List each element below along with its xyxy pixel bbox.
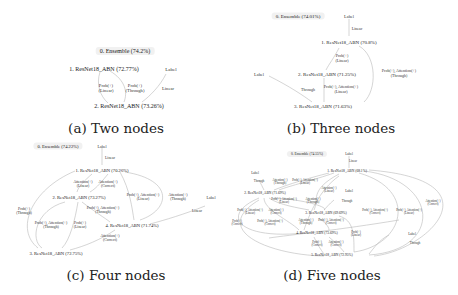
source-label: Label bbox=[97, 144, 106, 149]
edge-label: Attention(+) (Through) bbox=[305, 198, 320, 205]
source-label: Label bbox=[408, 232, 416, 236]
node-4: 4. ResNet18_ABN (73.69%) bbox=[296, 231, 338, 235]
edge-label: Prob(+), Attention(+) (Correct) bbox=[318, 219, 344, 226]
edge-label: Prob(+) (Linear) bbox=[335, 54, 348, 63]
edge-label: Attention(+) (Linear) bbox=[73, 180, 92, 188]
edge-label: Prob(+) (Through) bbox=[16, 207, 32, 215]
edge-label: Attention(+) (Correct) bbox=[425, 200, 440, 207]
edge-label: Linear bbox=[162, 86, 174, 91]
edge-label: Attention(+) (Correct) bbox=[98, 180, 117, 188]
edge-label: Prob(+) (Linear) bbox=[74, 221, 86, 229]
edge-label: Attention(+) (Linear) bbox=[321, 187, 336, 194]
edge-label: Prob(+), Attention(+) (Linear) bbox=[237, 209, 263, 216]
node-ensemble: 0. Ensemble (74.22%) bbox=[33, 143, 82, 150]
node-4: 4. ResNet18_ABN (71.74%) bbox=[105, 223, 158, 228]
edge-label: Prob(+), Attention(+) (Linear) bbox=[324, 85, 358, 94]
edge-label: Through bbox=[301, 88, 315, 93]
panel-two-nodes: 0. Ensemble (74.2%) 1. ResNet18_ABN (72.… bbox=[0, 0, 229, 140]
edge-label: Prob(+), Attention(+) (Through) bbox=[382, 69, 416, 78]
edge-label: Through bbox=[410, 242, 420, 245]
edge-label: Prob(+) (Through) bbox=[126, 83, 145, 93]
node-2: 2. ResNet18_ABN (73.27%) bbox=[52, 195, 105, 200]
panel-four-nodes: 0. Ensemble (74.22%) Label Linear 1. Res… bbox=[0, 140, 229, 295]
edge-label: Prob(+), Attention(+) (Correct) bbox=[257, 220, 283, 227]
node-ensemble: 0. Ensemble (74.2%) bbox=[96, 47, 155, 55]
node-1: 1. ResNet18_ABN (72.77%) bbox=[69, 66, 138, 72]
node-ensemble: 0. Ensemble (74.55%) bbox=[287, 151, 327, 157]
edge-label: Attention(+) (Through) bbox=[298, 219, 313, 226]
edges-layer bbox=[229, 0, 458, 140]
caption: (a) Two nodes bbox=[68, 120, 164, 136]
source-label: Label bbox=[206, 195, 215, 200]
edge-label: Prob(+) (Correct) bbox=[312, 241, 323, 248]
node-2: 2. ResNet18_ABN (71.69%) bbox=[244, 191, 286, 195]
edge-label: Linear bbox=[349, 160, 357, 163]
node-2: 2. ResNet18_ABN (71.25%) bbox=[298, 72, 356, 77]
node-1: 1. ResNet18_ABN (70.8%) bbox=[321, 40, 376, 45]
edge-label: Prob(+), Attention(+) (Linear) bbox=[396, 209, 422, 216]
source-label: Label bbox=[344, 14, 354, 19]
edge-label: Prob(+), Attention(+) (Correct) bbox=[362, 209, 388, 216]
edge-label: Prob(+), Attention(+) (Through) bbox=[35, 221, 68, 229]
edge-label: Linear bbox=[192, 209, 202, 213]
node-5: 5. ResNet18_ABN (72.95%) bbox=[311, 253, 353, 257]
panel-five-nodes: 0. Ensemble (74.55%) Label Linear 1. Res… bbox=[229, 140, 458, 295]
node-2: 2. ResNet18_ABN (73.26%) bbox=[94, 103, 163, 109]
edge-label: Attention(+) (Through) bbox=[168, 193, 187, 201]
edge-label: Prob(+) (Linear) bbox=[98, 83, 113, 93]
node-1: 1. ResNet18_ABN (68.1%) bbox=[327, 169, 367, 173]
source-label: Label bbox=[165, 67, 176, 72]
edge-label: Attention(+) (Correct) bbox=[100, 234, 119, 242]
edge-label: Attention(+) (Correct) bbox=[268, 209, 283, 216]
node-1: 1. ResNet18_ABN (70.26%) bbox=[75, 168, 128, 173]
source-label: Label bbox=[345, 189, 353, 193]
caption: (b) Three nodes bbox=[287, 120, 395, 136]
edge-label: Prob(+), Attention(+) (Through) bbox=[87, 206, 120, 214]
node-3: 3. ResNet18_ABN (72.75%) bbox=[29, 251, 82, 256]
edge-label: Attention(+) (Through) bbox=[272, 179, 287, 186]
edge-label: Through bbox=[342, 200, 352, 203]
node-3: 3. ResNet18_ABN (69.69%) bbox=[305, 211, 347, 215]
node-ensemble: 0. Ensemble (74.01%) bbox=[272, 13, 325, 20]
edge-label: Attention(+) (Correct) bbox=[328, 241, 343, 248]
edge-label: Linear bbox=[352, 27, 362, 32]
edge-label: Prob(+), Attention(+) (Linear) bbox=[127, 193, 160, 201]
caption: (c) Four nodes bbox=[67, 267, 166, 283]
edge-label: Prob(+), Attention(+) (Linear) bbox=[271, 198, 297, 205]
edge-label: Prob(+) (Linear) bbox=[351, 231, 361, 238]
caption: (d) Five nodes bbox=[283, 267, 380, 283]
source-label: Label bbox=[251, 171, 259, 175]
edge-label: Prob(+), Attention(+) (Linear) bbox=[292, 179, 318, 186]
panel-three-nodes: 0. Ensemble (74.01%) Label Linear 1. Res… bbox=[229, 0, 458, 140]
edge-label: Through bbox=[254, 180, 264, 183]
edge-label: Linear bbox=[105, 156, 115, 160]
source-label: Label bbox=[254, 72, 264, 77]
node-3: 3. ResNet18_ABN (71.63%) bbox=[294, 104, 352, 109]
source-label: Label bbox=[345, 152, 353, 156]
edge-label: Prob(+) (Correct) bbox=[232, 220, 243, 227]
